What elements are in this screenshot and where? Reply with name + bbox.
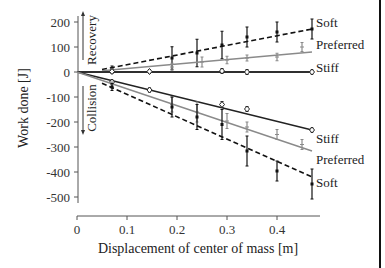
y-tick-label: 0 bbox=[64, 65, 71, 80]
data-series bbox=[77, 19, 315, 199]
series-preferred-recovery bbox=[102, 43, 312, 73]
label-stiff-collision: Stiff bbox=[316, 131, 340, 146]
label-preferred-recovery: Preferred bbox=[316, 37, 365, 52]
panel-border bbox=[379, 0, 381, 268]
diamond-marker bbox=[245, 69, 250, 75]
square-marker bbox=[221, 44, 224, 47]
label-soft-recovery: Soft bbox=[316, 15, 338, 30]
x-tick-label: 0.2 bbox=[169, 222, 185, 237]
square-marker bbox=[311, 183, 314, 186]
square-marker bbox=[276, 31, 279, 34]
work-displacement-chart: 2001000-100-200-300-400-500 00.10.20.30.… bbox=[0, 0, 385, 268]
diamond-marker bbox=[220, 102, 225, 108]
x-tick-label: 0.4 bbox=[269, 222, 286, 237]
y-tick-label: 100 bbox=[51, 40, 71, 55]
square-marker bbox=[111, 86, 114, 89]
square-marker bbox=[196, 52, 199, 55]
diamond-marker bbox=[220, 68, 225, 74]
label-stiff-recovery: Stiff bbox=[316, 60, 340, 75]
y-tick-label: 200 bbox=[51, 15, 71, 30]
svg-text:Collision: Collision bbox=[84, 84, 99, 132]
square-marker bbox=[196, 116, 199, 119]
square-marker bbox=[276, 170, 279, 173]
square-marker bbox=[246, 150, 249, 153]
y-tick-label: -400 bbox=[46, 165, 70, 180]
recovery-annotation: Recovery bbox=[81, 11, 99, 65]
diamond-marker bbox=[310, 69, 315, 75]
x-axis-title: Displacement of center of mass [m] bbox=[98, 241, 298, 256]
diamond-marker bbox=[147, 69, 152, 75]
y-tick-label: -300 bbox=[46, 140, 70, 155]
y-tick-label: -500 bbox=[46, 190, 70, 205]
diamond-marker bbox=[245, 106, 250, 112]
y-axis-title: Work done [J] bbox=[16, 68, 31, 148]
series-soft-recovery bbox=[102, 19, 314, 73]
series-stiff-recovery bbox=[77, 68, 315, 75]
square-marker bbox=[246, 36, 249, 39]
x-tick-label: 0.3 bbox=[219, 222, 235, 237]
y-axis: 2001000-100-200-300-400-500 bbox=[46, 15, 78, 205]
square-marker bbox=[311, 28, 314, 31]
label-soft-collision: Soft bbox=[316, 175, 338, 190]
x-tick-label: 0 bbox=[74, 222, 81, 237]
x-tick-label: 0.1 bbox=[119, 222, 135, 237]
square-marker bbox=[171, 106, 174, 109]
diamond-marker bbox=[147, 87, 152, 93]
square-marker bbox=[221, 123, 224, 126]
collision-annotation: Collision bbox=[81, 84, 99, 135]
y-tick-label: -200 bbox=[46, 115, 70, 130]
y-tick-label: -100 bbox=[46, 90, 70, 105]
label-preferred-collision: Preferred bbox=[316, 152, 365, 167]
square-marker bbox=[171, 57, 174, 60]
x-axis: 00.10.20.30.4 bbox=[74, 216, 320, 237]
diamond-marker bbox=[310, 127, 315, 133]
svg-text:Recovery: Recovery bbox=[84, 15, 99, 65]
